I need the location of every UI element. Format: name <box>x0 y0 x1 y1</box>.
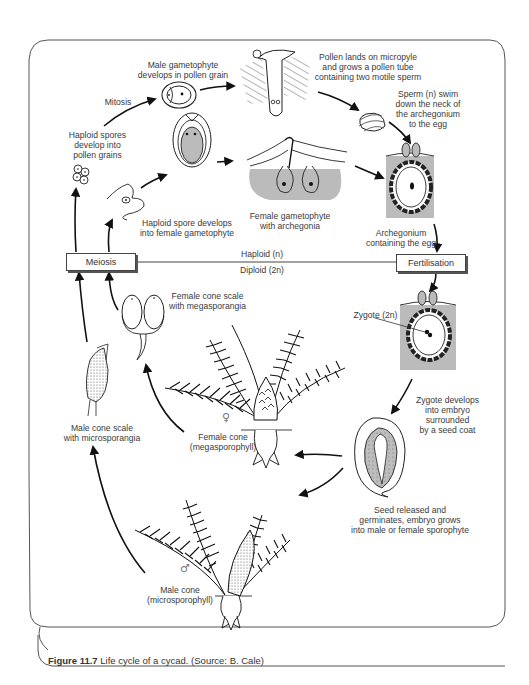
seed-embryo-illustration <box>355 418 405 497</box>
arrow-to-gametophyte <box>217 161 232 162</box>
archegonium-egg-illustration <box>386 143 434 218</box>
label-zygote-develops: Zygote develops into embryo surrounded b… <box>405 395 490 435</box>
label-male-cone-scale: Male cone scale with microsporangia <box>58 423 146 443</box>
haploid-spore-scale-illustration <box>107 184 144 220</box>
label-haploid-spores: Haploid spores develop into pollen grain… <box>60 130 135 160</box>
micropyle-pollen-tube-illustration <box>240 50 310 116</box>
female-symbol-icon: ♀ <box>222 411 230 424</box>
female-gametophyte-archegonia-illustration <box>247 138 347 201</box>
label-sperm-swim: Sperm (n) swim down the neck of the arch… <box>388 89 468 129</box>
haploid-label: Haploid (n) <box>232 249 292 259</box>
label-seed-released: Seed released and germinates, embryo gro… <box>345 505 475 535</box>
male-cycad-plant-illustration <box>135 500 290 630</box>
male-symbol-icon: ♂ <box>180 562 190 575</box>
label-archegonium: Archegonium containing the egg <box>356 228 446 248</box>
male-cone-scale-illustration <box>86 344 108 416</box>
label-female-cone: Female cone (megasporophyll) <box>178 432 268 452</box>
arrow-female-scale-to-meiosis <box>109 273 118 310</box>
label-haploid-spore-female: Haploid spore develops into female gamet… <box>132 218 242 238</box>
label-male-cone: Male cone (microsporophyll) <box>140 585 220 605</box>
figure-caption-text: Life cycle of a cycad. (Source: B. Cale) <box>98 655 264 666</box>
haploid-spores-illustration <box>73 165 89 184</box>
arrow-to-zygote <box>430 272 436 291</box>
label-male-gametophyte: Male gametophyte develops in pollen grai… <box>128 60 238 80</box>
figure-caption-label: Figure 11.7 <box>48 655 98 666</box>
arrow-meiosis-to-spore-female <box>108 220 112 252</box>
label-female-cone-scale: Female cone scale with megasporangia <box>165 291 250 311</box>
arrow-female-cone-to-scale <box>146 365 184 432</box>
meiosis-box: Meiosis <box>66 253 136 271</box>
arrow-to-ovule <box>141 175 166 188</box>
arrow-meiosis-to-spores <box>75 189 76 252</box>
zygote-illustration <box>375 291 456 370</box>
ovule-illustration <box>173 113 211 167</box>
label-zygote: Zygote (2n) <box>348 310 403 320</box>
arrow-to-sperm <box>318 92 358 110</box>
diploid-label: Diploid (2n) <box>232 265 292 275</box>
label-mitosis: Mitosis <box>98 97 138 107</box>
label-female-gametophyte: Female gametophyte with archegonia <box>240 211 340 231</box>
arrow-seed-to-male <box>300 468 343 495</box>
arrow-to-archegonium <box>355 166 383 178</box>
pollen-grain-illustration <box>162 82 196 108</box>
arrow-to-micropyle <box>200 86 234 90</box>
arrow-seed-to-female <box>296 454 342 456</box>
fertilisation-box: Fertilisation <box>396 254 466 272</box>
arrow-male-scale-to-meiosis <box>79 273 87 342</box>
label-pollen-lands: Pollen lands on micropyle and grows a po… <box>308 52 428 82</box>
arrow-male-cone-to-scale <box>93 447 145 573</box>
sperm-illustration <box>359 113 385 131</box>
female-cone-scale-illustration <box>122 295 164 360</box>
figure-caption: Figure 11.7 Life cycle of a cycad. (Sour… <box>48 655 264 666</box>
